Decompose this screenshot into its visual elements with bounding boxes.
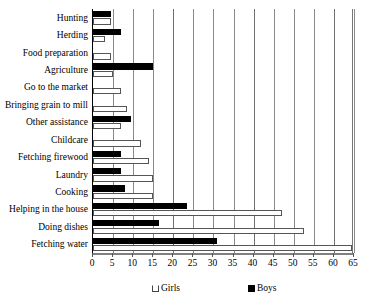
bar-group <box>93 9 352 26</box>
bar-girls <box>93 106 127 112</box>
x-tick-0 <box>92 253 93 257</box>
filled-square-icon <box>248 285 255 292</box>
open-square-icon <box>152 285 159 292</box>
y-axis-label-bringing-grain-to-mill: Bringing grain to mill <box>5 100 88 110</box>
x-tick-55 <box>313 253 314 257</box>
bar-group <box>93 114 352 131</box>
x-tick-50 <box>293 253 294 257</box>
bar-girls <box>93 245 352 251</box>
x-tick-65 <box>353 253 354 257</box>
bar-group <box>93 79 352 96</box>
bar-group <box>93 183 352 200</box>
x-tick-label-65: 65 <box>348 258 358 269</box>
bar-girls <box>93 88 121 94</box>
x-tick-label-20: 20 <box>168 258 178 269</box>
bar-girls <box>93 71 113 77</box>
x-tick-label-60: 60 <box>328 258 338 269</box>
bar-group <box>93 44 352 61</box>
x-tick-label-0: 0 <box>90 258 95 269</box>
bar-group <box>93 131 352 148</box>
x-tick-label-10: 10 <box>127 258 137 269</box>
x-tick-20 <box>172 253 173 257</box>
y-axis-label-laundry: Laundry <box>56 170 88 180</box>
x-tick-label-50: 50 <box>288 258 298 269</box>
bar-girls <box>93 53 111 59</box>
bar-girls <box>93 210 282 216</box>
y-axis-label-food-preparation: Food preparation <box>23 48 88 58</box>
bar-boys <box>93 29 121 35</box>
bar-girls <box>93 193 153 199</box>
y-axis-label-fetching-firewood: Fetching firewood <box>18 152 88 162</box>
x-tick-15 <box>152 253 153 257</box>
bar-group <box>93 148 352 165</box>
bar-girls <box>93 36 105 42</box>
bar-girls <box>93 18 111 24</box>
y-axis-label-childcare: Childcare <box>51 135 88 145</box>
legend-label: Boys <box>257 283 277 294</box>
x-tick-5 <box>112 253 113 257</box>
bar-group <box>93 201 352 218</box>
x-tick-60 <box>333 253 334 257</box>
bar-boys <box>93 11 111 17</box>
chart-legend: GirlsBoys <box>0 283 367 299</box>
y-axis-label-agriculture: Agriculture <box>44 65 88 75</box>
bar-boys <box>93 168 121 174</box>
y-axis-label-cooking: Cooking <box>55 187 88 197</box>
x-tick-30 <box>212 253 213 257</box>
legend-entry-girls: Girls <box>152 283 180 294</box>
bar-group <box>93 218 352 235</box>
bar-chart: HuntingHerdingFood preparationAgricultur… <box>0 0 367 302</box>
bar-boys <box>93 63 153 69</box>
y-axis-label-other-assistance: Other assistance <box>26 117 88 127</box>
y-axis-label-helping-in-the-house: Helping in the house <box>9 204 88 214</box>
bar-group <box>93 96 352 113</box>
x-tick-label-15: 15 <box>147 258 157 269</box>
bar-group <box>93 26 352 43</box>
x-tick-label-5: 5 <box>110 258 115 269</box>
x-tick-label-55: 55 <box>308 258 318 269</box>
bar-group <box>93 236 352 253</box>
y-axis-label-hunting: Hunting <box>57 13 88 23</box>
bar-boys <box>93 220 159 226</box>
bar-girls <box>93 140 141 146</box>
x-tick-label-25: 25 <box>188 258 198 269</box>
x-tick-35 <box>233 253 234 257</box>
x-tick-label-35: 35 <box>228 258 238 269</box>
gridline-65 <box>354 9 355 253</box>
bar-girls <box>93 123 121 129</box>
x-tick-40 <box>253 253 254 257</box>
x-tick-25 <box>192 253 193 257</box>
x-tick-45 <box>273 253 274 257</box>
bar-girls <box>93 158 149 164</box>
y-axis-label-fetching-water: Fetching water <box>31 239 88 249</box>
legend-entry-boys: Boys <box>248 283 277 294</box>
bar-boys <box>93 151 121 157</box>
bar-group <box>93 61 352 78</box>
plot-area <box>92 9 353 253</box>
legend-label: Girls <box>161 283 180 294</box>
x-tick-label-40: 40 <box>248 258 258 269</box>
y-axis-label-go-to-the-market: Go to the market <box>24 82 88 92</box>
y-axis-label-herding: Herding <box>57 30 88 40</box>
y-axis-category-labels: HuntingHerdingFood preparationAgricultur… <box>0 9 88 253</box>
bar-boys <box>93 203 187 209</box>
y-axis-label-doing-dishes: Doing dishes <box>38 222 88 232</box>
bar-girls <box>93 228 304 234</box>
bar-boys <box>93 185 125 191</box>
bar-group <box>93 166 352 183</box>
x-tick-label-30: 30 <box>208 258 218 269</box>
bar-boys <box>93 116 131 122</box>
bar-girls <box>93 175 153 181</box>
x-tick-10 <box>132 253 133 257</box>
x-tick-label-45: 45 <box>268 258 278 269</box>
bar-boys <box>93 238 217 244</box>
